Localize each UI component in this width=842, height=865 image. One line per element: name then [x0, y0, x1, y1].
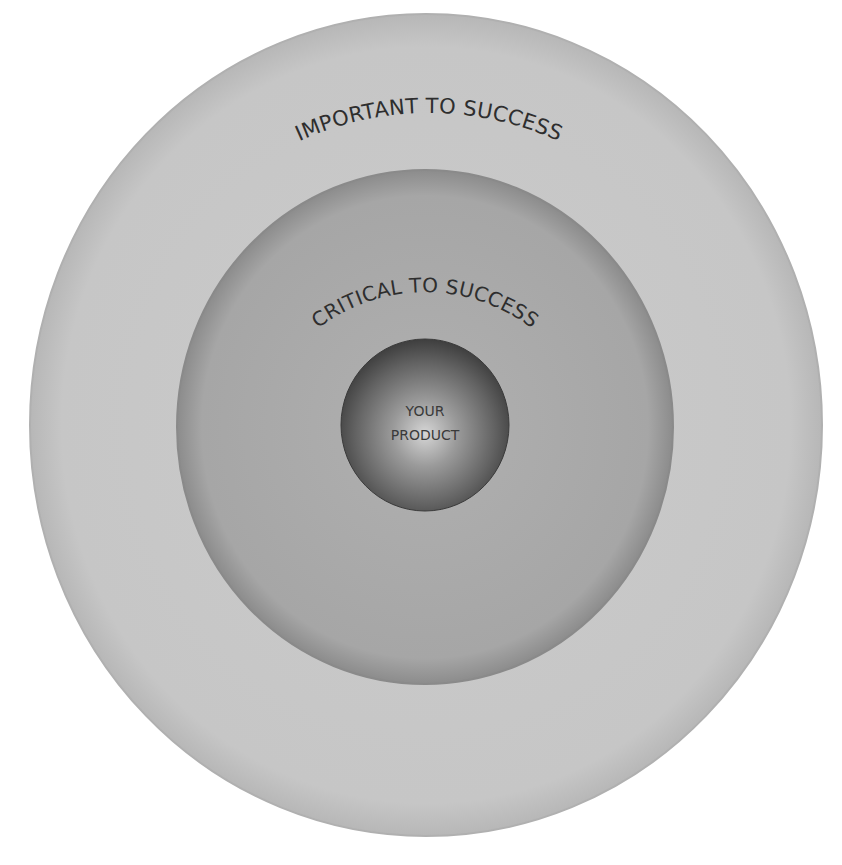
concentric-circles-diagram: IMPORTANT TO SUCCESS CRITICAL TO SUCCESS… [0, 0, 842, 865]
inner-label-line1: YOUR [405, 403, 445, 419]
inner-sphere [341, 339, 509, 511]
inner-label-line2: PRODUCT [391, 427, 460, 443]
